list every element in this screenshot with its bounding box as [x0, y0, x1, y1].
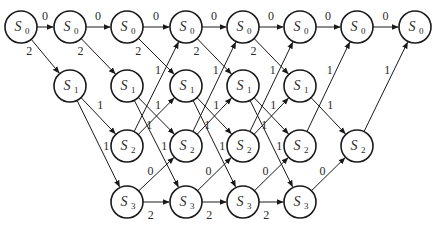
state-node-s0: S0 — [341, 11, 373, 43]
edge-label: 0 — [153, 9, 159, 23]
state-symbol: S — [294, 78, 301, 93]
state-symbol: S — [180, 194, 187, 209]
state-node-s1: S1 — [170, 70, 202, 102]
state-index: 2 — [304, 145, 309, 155]
state-node-s3: S3 — [227, 186, 259, 218]
nodes-layer: S0S0S1S0S1S2S3S0S1S2S3S0S1S2S3S0S1S2S3S0… — [5, 11, 431, 218]
edge-line — [364, 42, 408, 131]
edge-label: 1 — [146, 118, 152, 132]
state-symbol: S — [294, 194, 301, 209]
state-index: 0 — [190, 26, 195, 36]
edge-label: 2 — [135, 44, 141, 58]
state-symbol: S — [121, 19, 128, 34]
transition-edge-s3-to-s2 — [254, 158, 287, 191]
state-symbol: S — [409, 19, 416, 34]
edge-label: 2 — [78, 44, 84, 58]
edge-label: 1 — [155, 98, 161, 112]
state-index: 1 — [74, 85, 79, 95]
state-node-s2: S2 — [170, 130, 202, 162]
state-index: 1 — [304, 85, 309, 95]
state-node-s1: S1 — [111, 70, 143, 102]
state-symbol: S — [15, 19, 22, 34]
state-node-s2: S2 — [227, 130, 259, 162]
state-symbol: S — [294, 19, 301, 34]
edge-label: 1 — [155, 63, 161, 77]
state-node-s2: S2 — [284, 130, 316, 162]
state-symbol: S — [64, 78, 71, 93]
edge-label: 2 — [263, 208, 269, 222]
edge-label: 2 — [194, 44, 200, 58]
state-symbol: S — [351, 19, 358, 34]
edge-line — [81, 39, 115, 74]
state-node-s1: S1 — [54, 70, 86, 102]
edges-layer — [31, 27, 407, 202]
state-symbol: S — [180, 138, 187, 153]
state-node-s1: S1 — [227, 70, 259, 102]
edge-label: 0 — [42, 9, 48, 23]
state-node-s2: S2 — [341, 130, 373, 162]
edge-line — [197, 158, 230, 191]
state-symbol: S — [121, 138, 128, 153]
state-index: 1 — [247, 85, 252, 95]
edge-label: 0 — [325, 9, 331, 23]
state-index: 2 — [131, 145, 136, 155]
state-node-s0: S0 — [227, 11, 259, 43]
edge-label: 1 — [327, 63, 333, 77]
edge-label: 0 — [268, 9, 274, 23]
state-index: 0 — [74, 26, 79, 36]
state-index: 3 — [190, 201, 195, 211]
transition-edge-s2-to-s0 — [364, 42, 408, 131]
state-symbol: S — [237, 78, 244, 93]
edge-label: 2 — [26, 44, 32, 58]
state-index: 2 — [247, 145, 252, 155]
state-node-s1: S1 — [284, 70, 316, 102]
state-node-s2: S2 — [111, 130, 143, 162]
edge-label: 2 — [206, 208, 212, 222]
state-index: 3 — [247, 201, 252, 211]
state-symbol: S — [237, 194, 244, 209]
transition-edge-s0-to-s1 — [81, 39, 115, 74]
edge-label: 1 — [161, 139, 167, 153]
edge-label: 1 — [270, 98, 276, 112]
state-symbol: S — [121, 194, 128, 209]
state-index: 1 — [131, 85, 136, 95]
state-index: 3 — [304, 201, 309, 211]
edge-label: 1 — [261, 118, 267, 132]
state-index: 0 — [25, 26, 30, 36]
edge-label: 1 — [270, 63, 276, 77]
edge-label: 1 — [204, 118, 210, 132]
transition-edge-s3-to-s2 — [311, 158, 344, 191]
state-symbol: S — [121, 78, 128, 93]
state-symbol: S — [180, 19, 187, 34]
edge-label: 1 — [213, 98, 219, 112]
state-index: 0 — [131, 26, 136, 36]
state-node-s0: S0 — [399, 11, 431, 43]
state-symbol: S — [237, 138, 244, 153]
trellis-diagram: 020211021111020211110202111102011001 S0S… — [0, 0, 435, 226]
edge-label: 0 — [205, 164, 211, 178]
state-node-s0: S0 — [54, 11, 86, 43]
state-index: 1 — [190, 85, 195, 95]
edge-label: 0 — [262, 164, 268, 178]
state-node-s3: S3 — [284, 186, 316, 218]
state-symbol: S — [180, 78, 187, 93]
edge-label: 0 — [147, 164, 153, 178]
transition-edge-s0-to-s1 — [31, 39, 59, 73]
state-symbol: S — [237, 19, 244, 34]
transition-edge-s3-to-s2 — [139, 158, 174, 191]
edge-labels-layer: 020211021111020211110202111102011001 — [26, 9, 390, 222]
state-node-s0: S0 — [111, 11, 143, 43]
edge-label: 2 — [251, 44, 257, 58]
edge-label: 1 — [384, 63, 390, 77]
state-symbol: S — [64, 19, 71, 34]
state-index: 3 — [131, 201, 136, 211]
edge-label: 0 — [319, 164, 325, 178]
state-node-s3: S3 — [170, 186, 202, 218]
edge-label: 0 — [95, 9, 101, 23]
state-index: 0 — [247, 26, 252, 36]
edge-line — [31, 39, 59, 73]
edge-label: 1 — [103, 139, 109, 153]
state-node-s0: S0 — [170, 11, 202, 43]
edge-label: 1 — [276, 139, 282, 153]
state-symbol: S — [294, 138, 301, 153]
